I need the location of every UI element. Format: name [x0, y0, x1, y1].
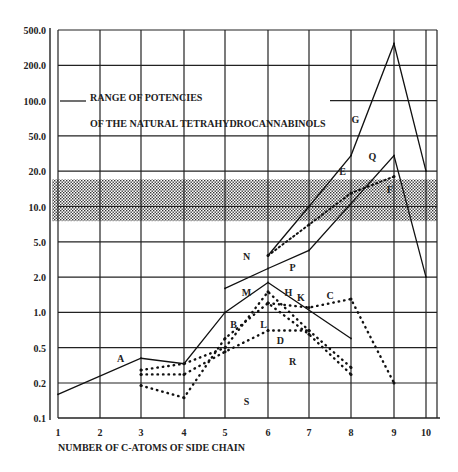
data-point-D: [140, 373, 143, 376]
series-label-A: A: [117, 353, 125, 364]
y-tick-label: 50.0: [29, 131, 47, 142]
data-point-P: [224, 288, 226, 290]
x-tick-label: 2: [98, 427, 103, 438]
y-tick-label: 10.0: [29, 202, 47, 213]
data-point-R: [140, 384, 143, 387]
data-point-C: [267, 302, 270, 305]
x-axis-title: NUMBER OF C-ATOMS OF SIDE CHAIN: [58, 442, 246, 453]
data-point-P: [267, 268, 269, 270]
data-point-B: [267, 290, 270, 293]
data-point-A: [350, 338, 352, 340]
data-point-B: [183, 362, 186, 365]
data-point-P: [393, 155, 395, 157]
series-label-R: R: [289, 356, 297, 367]
data-point-B: [224, 346, 227, 349]
x-tick-label: 3: [139, 427, 144, 438]
x-tick-label: 4: [182, 427, 187, 438]
series-label-P: P: [290, 262, 296, 273]
data-point-A: [57, 393, 59, 395]
x-tick-label: 7: [307, 427, 312, 438]
y-tick-label: 100.0: [24, 96, 47, 107]
data-point-P: [425, 276, 427, 278]
data-point-R: [183, 396, 186, 399]
data-point-R: [350, 373, 353, 376]
data-point-F: [267, 254, 270, 257]
series-label-M: M: [242, 287, 252, 298]
series-label-D: D: [277, 335, 284, 346]
y-tick-label: 2.0: [34, 272, 47, 283]
y-tick-label: 20.0: [29, 166, 47, 177]
series-label-F: F: [387, 184, 393, 195]
data-point-B: [350, 366, 353, 369]
data-point-C: [393, 382, 396, 385]
series-line-G: [268, 44, 426, 256]
data-point-D: [224, 350, 227, 353]
series-line-A: [58, 282, 351, 394]
series-line-B: [141, 292, 351, 370]
series-label-N: N: [243, 251, 251, 262]
data-point-A: [140, 357, 142, 359]
potency-range-band: [52, 179, 437, 221]
y-tick-label: 200.0: [24, 60, 47, 71]
series-label-S: S: [244, 396, 250, 407]
data-point-C: [350, 298, 353, 301]
data-point-C: [308, 306, 311, 309]
data-point-P: [308, 249, 310, 251]
series-label-G: G: [351, 114, 359, 125]
x-tick-label: 5: [223, 427, 228, 438]
x-tick-label: 10: [421, 427, 431, 438]
data-point-R: [308, 333, 311, 336]
series-label-C: C: [326, 290, 333, 301]
data-point-G: [393, 43, 395, 45]
series-label-H: H: [285, 287, 293, 298]
data-point-F: [308, 223, 311, 226]
series-label-L: L: [260, 319, 267, 330]
data-point-B: [140, 369, 143, 372]
data-point-F: [350, 192, 353, 195]
series-label-K: K: [297, 292, 305, 303]
x-tick-label: 6: [266, 427, 271, 438]
data-point-R: [224, 337, 227, 340]
data-point-A: [267, 282, 269, 284]
y-tick-label: 1.0: [34, 307, 47, 318]
potency-chart: 500.0200.0100.050.020.010.05.02.01.00.50…: [0, 0, 458, 472]
data-point-A: [224, 312, 226, 314]
data-point-G: [425, 170, 427, 172]
x-tick-label: 8: [349, 427, 354, 438]
data-point-G: [350, 155, 352, 157]
y-tick-label: 5.0: [34, 237, 47, 248]
x-tick-label: 9: [392, 427, 397, 438]
series-label-B: B: [230, 319, 237, 330]
y-tick-label: 500.0: [24, 25, 47, 36]
data-point-G: [308, 206, 310, 208]
series-line-P: [225, 156, 426, 289]
y-tick-label: 0.1: [34, 413, 47, 424]
data-point-F: [393, 175, 396, 178]
data-point-D: [183, 373, 186, 376]
x-tick-label: 1: [56, 427, 61, 438]
data-point-D: [308, 329, 311, 332]
y-tick-label: 0.2: [34, 378, 47, 389]
series-line-C: [268, 299, 394, 383]
annotation-line-1: RANGE OF POTENCIES: [90, 92, 203, 103]
y-tick-label: 0.5: [34, 343, 47, 354]
annotation-line-2: OF THE NATURAL TETRAHYDROCANNABINOLS: [90, 118, 326, 129]
series-label-Q: Q: [369, 151, 377, 162]
series-label-E: E: [339, 166, 346, 177]
